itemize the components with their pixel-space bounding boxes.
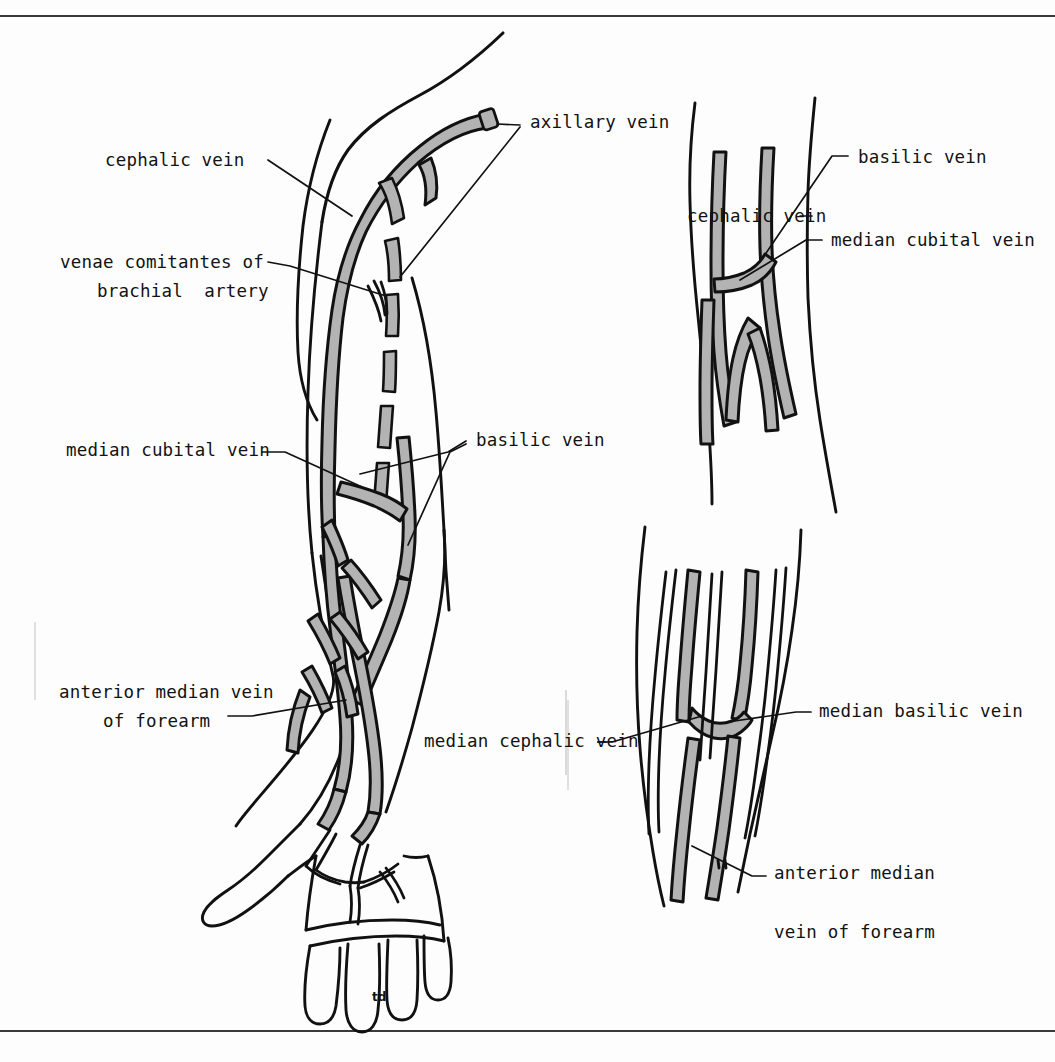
label-axillary-vein: axillary vein: [530, 112, 670, 132]
hand: [202, 824, 451, 1032]
inset-bottom-right: [598, 527, 811, 906]
label-inset2-anterior-median-line2: vein of forearm: [774, 922, 935, 942]
label-inset1-basilic-vein: basilic vein: [858, 147, 987, 167]
label-venae-comitantes-line2: brachial artery: [97, 281, 269, 301]
label-inset1-median-cubital-vein: median cubital vein: [831, 230, 1035, 250]
label-median-cubital-vein: median cubital vein: [66, 440, 270, 460]
inset2-thin-veins: [648, 568, 786, 838]
figure-page: .sk { fill:none; stroke:#111; stroke-wid…: [0, 0, 1055, 1062]
label-anterior-median-line1: anterior median vein: [59, 682, 274, 702]
label-median-cephalic-vein: median cephalic vein: [424, 731, 639, 751]
venae-comitantes-hatch: [368, 281, 387, 321]
label-anterior-median-line2: of forearm: [103, 711, 210, 731]
inset-top-right: [690, 98, 848, 512]
artist-signature: td: [372, 990, 386, 1004]
label-venae-comitantes-line1: venae comitantes of: [60, 252, 264, 272]
label-cephalic-vein: cephalic vein: [105, 150, 245, 170]
dorsal-venous-network: [306, 830, 428, 924]
label-basilic-vein-main: basilic vein: [476, 430, 605, 450]
label-inset2-anterior-median-line1: anterior median: [774, 863, 935, 883]
label-inset1-cephalic-vein: cephalic vein: [687, 206, 827, 226]
label-inset2-median-basilic-vein: median basilic vein: [819, 701, 1023, 721]
